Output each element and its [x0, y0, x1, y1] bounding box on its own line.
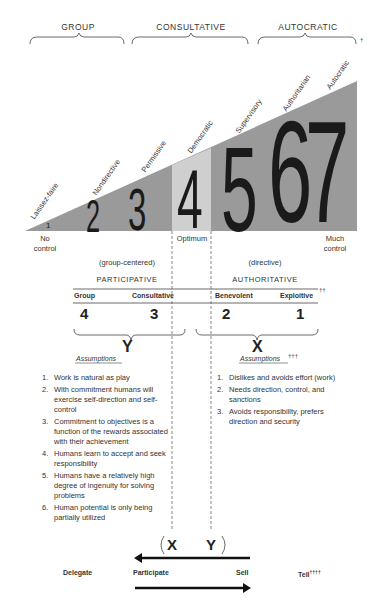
list-item: 2.With commitment humans will exercise s… [42, 385, 170, 415]
system-number-1: 1 [296, 305, 304, 322]
action-participate: Participate [133, 569, 169, 576]
action-tell: Tell†††† [298, 569, 321, 578]
bottom-x-marker: X [167, 536, 177, 553]
participative-label: PARTICIPATIVE [86, 275, 168, 285]
system-header-benevolent: Benevolent [215, 292, 253, 299]
system-number-4: 4 [80, 305, 88, 322]
much-control-label: Muchcontrol [318, 234, 352, 254]
theory-x-assumptions-list: 1.Dislikes and avoids effort (work) 2.Ne… [217, 373, 337, 429]
list-item: 1.Dislikes and avoids effort (work) [217, 373, 337, 383]
style-number-5: 5 [221, 129, 258, 249]
brace-group [30, 33, 124, 44]
list-item: 4.Humans learn to accept and seek respon… [42, 449, 170, 469]
theory-x-assumptions-title: Assumptions [240, 355, 280, 362]
directive-label: (directive) [236, 258, 294, 268]
no-control-label: Nocontrol [30, 234, 60, 254]
group-centered-label: (group-centered) [92, 258, 162, 268]
brace-consultative [132, 33, 248, 44]
system-header-exploitive: Exploitive [280, 292, 313, 299]
list-item: 2.Needs direction, control, and sanction… [217, 385, 337, 405]
theory-x-footnote-mark: ††† [288, 353, 298, 359]
theory-y-assumptions-title: Assumptions [76, 355, 116, 362]
action-sell: Sell [236, 569, 248, 576]
system-header-group: Group [74, 292, 95, 299]
list-item: 6.Human potential is only being partiall… [42, 503, 170, 523]
style-number-3: 3 [128, 180, 146, 240]
theory-y-assumptions-list: 1.Work is natural as play 2.With commitm… [42, 373, 170, 525]
list-item: 3.Avoids responsibility, prefers directi… [217, 407, 337, 427]
authoritative-label: AUTHORITATIVE [220, 275, 310, 285]
style-number-4: 4 [177, 157, 203, 241]
brace-autocratic [258, 33, 356, 44]
list-item: 3.Commitment to objectives is a function… [42, 417, 170, 447]
system-header-consultative: Consultative [132, 292, 174, 299]
action-delegate: Delegate [63, 569, 92, 576]
theory-y-letter: Y [122, 338, 133, 356]
optimum-label: Optimum [172, 234, 212, 244]
system-number-2: 2 [222, 305, 230, 322]
style-number-7: 7 [305, 100, 349, 245]
style-number-1: 1 [46, 222, 50, 230]
style-number-2: 2 [86, 193, 100, 239]
systems-footnote-mark: †† [319, 287, 326, 293]
theory-x-letter: X [252, 338, 263, 356]
system-number-3: 3 [150, 305, 158, 322]
list-item: 1.Work is natural as play [42, 373, 170, 383]
list-item: 5.Humans have a relatively high degree o… [42, 471, 170, 501]
bottom-y-marker: Y [206, 536, 216, 553]
